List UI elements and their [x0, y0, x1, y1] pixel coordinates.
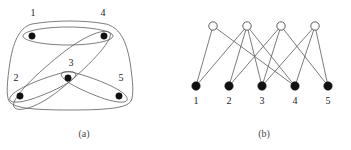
bipartite-vertex-label-4: 4: [293, 95, 298, 106]
panel-b-labels: 12345: [194, 95, 331, 106]
hyperedge-e-14: [23, 27, 113, 45]
panel-b: 12345 (b): [192, 22, 332, 140]
bipartite-vertex-label-3: 3: [260, 95, 265, 106]
incidence-E3-3: [262, 26, 281, 86]
bipartite-vertex-label-2: 2: [227, 95, 232, 106]
incidence-E4-5: [315, 26, 328, 86]
vertex-label-3: 3: [69, 57, 74, 68]
vertex-3: [65, 75, 71, 81]
edge-node-E3: [277, 22, 285, 30]
edge-node-E4: [311, 22, 319, 30]
bipartite-vertex-label-1: 1: [194, 95, 199, 106]
panel-b-caption: (b): [258, 128, 270, 140]
panel-a: 12345 (a): [7, 7, 133, 140]
bipartite-vertex-4: [291, 82, 299, 90]
incidence-E2-1: [196, 26, 247, 86]
vertex-5: [116, 93, 122, 99]
incidence-E3-2: [229, 26, 281, 86]
vertex-label-4: 4: [101, 7, 106, 18]
incidence-E1-1: [196, 26, 213, 86]
vertex-4: [101, 33, 107, 39]
bipartite-vertex-2: [225, 82, 233, 90]
vertex-2: [17, 93, 23, 99]
incidence-E2-2: [229, 26, 247, 86]
vertex-label-5: 5: [119, 72, 124, 83]
edge-node-E1: [209, 22, 217, 30]
bipartite-vertex-5: [324, 82, 332, 90]
vertex-label-1: 1: [31, 7, 36, 18]
panel-b-vertex-nodes: [192, 82, 332, 90]
vertex-1: [29, 33, 35, 39]
incidence-E4-4: [295, 26, 315, 86]
bipartite-vertex-3: [258, 82, 266, 90]
edge-node-E2: [243, 22, 251, 30]
panel-b-edge-nodes: [209, 22, 319, 30]
hypergraph-figure: 12345 (a) 12345 (b): [0, 0, 351, 150]
bipartite-vertex-label-5: 5: [326, 95, 331, 106]
panel-a-caption: (a): [78, 128, 89, 140]
vertex-label-2: 2: [14, 72, 19, 83]
bipartite-vertex-1: [192, 82, 200, 90]
panel-b-incidence-edges: [196, 26, 328, 86]
